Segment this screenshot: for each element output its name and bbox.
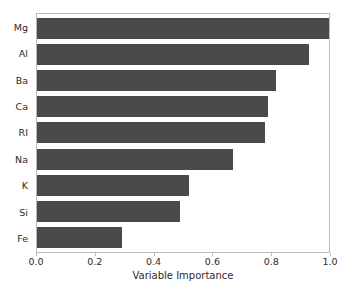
bar bbox=[37, 96, 268, 117]
bar bbox=[37, 70, 276, 91]
bar-row bbox=[37, 149, 329, 170]
y-axis-tick-label: Ba bbox=[0, 70, 32, 91]
bar-group bbox=[37, 14, 329, 252]
bar-row bbox=[37, 122, 329, 143]
bar bbox=[37, 149, 233, 170]
x-axis-tick-label: 0.2 bbox=[87, 253, 102, 267]
y-axis-tick-label: Al bbox=[0, 43, 32, 64]
bar bbox=[37, 201, 180, 222]
bar-row bbox=[37, 44, 329, 65]
bar bbox=[37, 175, 189, 196]
bar bbox=[37, 227, 122, 248]
y-axis-tick-label: K bbox=[0, 175, 32, 196]
x-axis-tick-label: 1.0 bbox=[322, 253, 337, 267]
y-axis-tick-label: Si bbox=[0, 202, 32, 223]
y-axis-label-group: MgAlBaCaRINaKSiFe bbox=[0, 13, 32, 253]
x-axis-tick-label: 0.0 bbox=[28, 253, 43, 267]
y-axis-tick-label: RI bbox=[0, 122, 32, 143]
bar bbox=[37, 18, 329, 39]
bar-row bbox=[37, 96, 329, 117]
x-axis-tick-label: 0.8 bbox=[264, 253, 279, 267]
plot-area bbox=[36, 13, 330, 253]
x-axis-tick-label: 0.6 bbox=[205, 253, 220, 267]
bar bbox=[37, 122, 265, 143]
y-axis-tick-label: Na bbox=[0, 149, 32, 170]
variable-importance-bar-chart: MgAlBaCaRINaKSiFe 0.00.20.40.60.81.0 Var… bbox=[0, 0, 347, 290]
bar-row bbox=[37, 175, 329, 196]
y-axis-tick-label: Ca bbox=[0, 96, 32, 117]
x-axis-title: Variable Importance bbox=[36, 270, 330, 281]
x-axis-tick-group: 0.00.20.40.60.81.0 bbox=[36, 253, 330, 269]
bar-row bbox=[37, 201, 329, 222]
bar-row bbox=[37, 18, 329, 39]
bar-row bbox=[37, 227, 329, 248]
bar bbox=[37, 44, 309, 65]
y-axis-tick-label: Fe bbox=[0, 228, 32, 249]
x-axis-tick-label: 0.4 bbox=[146, 253, 161, 267]
bar-row bbox=[37, 70, 329, 91]
y-axis-tick-label: Mg bbox=[0, 17, 32, 38]
